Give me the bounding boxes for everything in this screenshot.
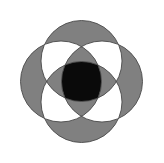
- figure-container: Four overlapping circles rosette Four eq…: [0, 0, 164, 163]
- four-circle-venn-diagram: [0, 0, 164, 163]
